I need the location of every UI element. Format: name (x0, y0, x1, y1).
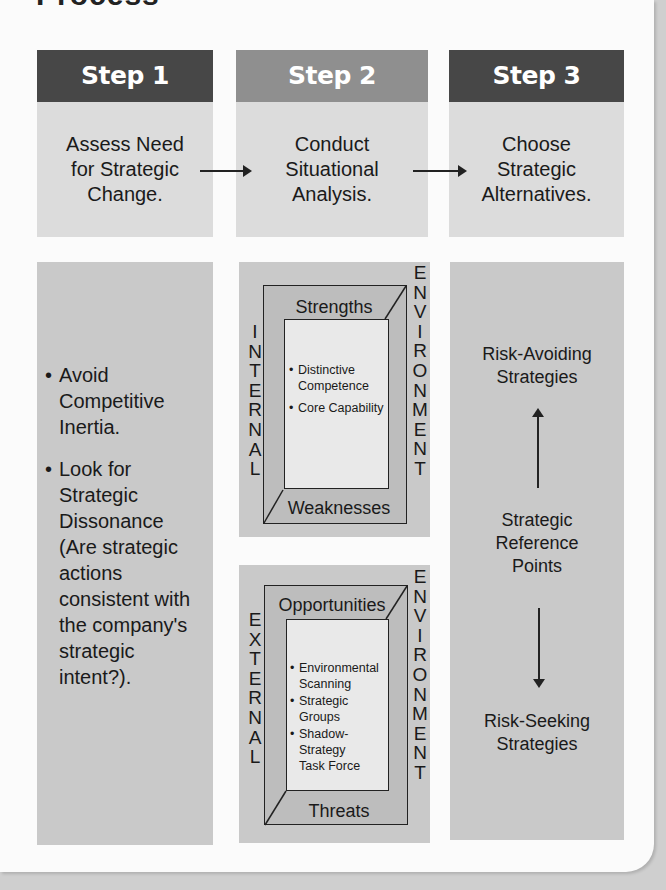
list-item: •Shadow-Strategy Task Force (290, 726, 388, 774)
step-3-description-text: Choose Strategic Alternatives. (462, 132, 612, 207)
step-1-description: Assess Need for Strategic Change. (37, 102, 213, 237)
step-3-header: Step 3 (449, 50, 624, 102)
weaknesses-label: Weaknesses (274, 498, 404, 519)
internal-side-label: INTERNAL (245, 322, 265, 479)
step-1-bullet-list: • Avoid Competitive Inertia. • Look for … (45, 362, 207, 704)
risk-seeking-label: Risk-Seeking Strategies (450, 710, 624, 756)
risk-avoiding-label: Risk-Avoiding Strategies (450, 343, 624, 389)
step-2-header: Step 2 (236, 50, 428, 102)
arrow-step2-to-step3-icon (413, 170, 465, 172)
arrow-down-icon (538, 608, 540, 686)
threats-label: Threats (279, 801, 399, 822)
list-item: •Core Capability (289, 400, 387, 416)
bullet-icon: • (45, 456, 59, 690)
bullet-item: • Avoid Competitive Inertia. (45, 362, 207, 440)
swot-inner-frame: •Environmental Scanning •Strategic Group… (286, 619, 389, 791)
arrow-up-icon (537, 410, 539, 488)
list-item: •Strategic Groups (290, 693, 388, 725)
step-2-description: Conduct Situational Analysis. (236, 102, 428, 237)
opportunities-label: Opportunities (267, 595, 397, 616)
external-side-label: EXTERNAL (245, 610, 265, 767)
list-item-text: Distinctive Competence (298, 362, 387, 394)
bullet-item: • Look for Strategic Dissonance (Are str… (45, 456, 207, 690)
list-item-text: Environmental Scanning (299, 660, 388, 692)
bullet-text: Look for Strategic Dissonance (Are strat… (59, 456, 199, 690)
page-title: Process (36, 0, 160, 12)
strengths-label: Strengths (279, 297, 389, 318)
list-item: •Distinctive Competence (289, 362, 387, 394)
arrow-step1-to-step2-icon (200, 170, 250, 172)
strategic-reference-points-label: Strategic Reference Points (450, 509, 624, 578)
list-item-text: Core Capability (298, 400, 383, 416)
diagram-card: Process Step 1 Step 2 Step 3 Assess Need… (0, 0, 654, 872)
internal-item-list: •Distinctive Competence •Core Capability (289, 362, 387, 422)
list-item-text: Strategic Groups (299, 693, 359, 725)
step-1-header: Step 1 (37, 50, 213, 102)
environment-side-label: ENVIRONMENT (410, 263, 430, 479)
swot-inner-frame: •Distinctive Competence •Core Capability (284, 319, 389, 489)
list-item: •Environmental Scanning (290, 660, 388, 692)
external-item-list: •Environmental Scanning •Strategic Group… (290, 660, 388, 775)
bullet-text: Avoid Competitive Inertia. (59, 362, 169, 440)
step-3-description: Choose Strategic Alternatives. (449, 102, 624, 237)
step-1-description-text: Assess Need for Strategic Change. (55, 132, 195, 207)
step-1-panel: • Avoid Competitive Inertia. • Look for … (37, 262, 213, 845)
external-environment-panel: EXTERNAL •Environmental Scanning •Strate… (239, 565, 430, 843)
internal-environment-panel: INTERNAL •Distinctive Competence •Core C… (239, 262, 430, 537)
list-item-text: Shadow-Strategy Task Force (299, 726, 369, 774)
step-2-description-text: Conduct Situational Analysis. (272, 132, 392, 207)
environment-side-label: ENVIRONMENT (410, 567, 430, 783)
bullet-icon: • (45, 362, 59, 440)
step-3-panel: Risk-Avoiding Strategies Strategic Refer… (450, 262, 624, 840)
